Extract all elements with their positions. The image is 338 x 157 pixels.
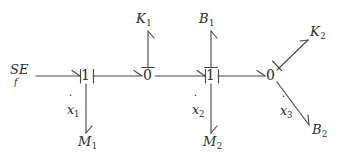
- element-letter-k2: K: [310, 24, 320, 39]
- element-label-k1: K1: [136, 12, 151, 25]
- bond-se-j1: [36, 70, 81, 84]
- element-label-m1: M1: [78, 135, 97, 148]
- junction-0-right: 0: [266, 68, 275, 82]
- flow-sub-xdot3: 3: [287, 110, 292, 120]
- element-label-m2: M2: [203, 135, 222, 148]
- element-label-b1: B1: [199, 12, 214, 25]
- element-letter-b2: B: [312, 122, 322, 137]
- flow-letter-xdot3: x: [280, 105, 287, 118]
- bond-j3-b1: [205, 31, 218, 68]
- source-effort-label: SE f: [10, 63, 28, 87]
- source-effort-symbol: SE: [10, 63, 28, 76]
- bond-j3-j4: [218, 70, 265, 84]
- flow-letter-xdot1: x: [67, 104, 74, 117]
- bond-j1-j2: [93, 70, 142, 84]
- bond-j1-m1: [86, 84, 92, 133]
- bond-j4-k2: [273, 40, 309, 71]
- bond-graph-figure: SE f 1 0 1 0 K1 B1 K2 M1 M2 B2 x1 x2 x3: [0, 0, 338, 157]
- element-sub-m1: 1: [92, 141, 97, 151]
- source-effort-subscript: f: [3, 77, 28, 87]
- element-sub-b2: 2: [322, 129, 327, 139]
- element-letter-k1: K: [136, 11, 146, 26]
- element-sub-k2: 2: [320, 31, 325, 41]
- bond-j2-j3: [155, 70, 206, 84]
- element-sub-m2: 2: [217, 141, 222, 151]
- bond-j3-m2: [211, 84, 217, 133]
- element-label-b2: B2: [312, 123, 327, 136]
- element-sub-k1: 1: [146, 18, 151, 28]
- flow-variable-xdot1: x1: [67, 104, 79, 117]
- junction-0-left: 0: [143, 68, 152, 82]
- junction-1-left: 1: [81, 68, 90, 82]
- element-letter-m2: M: [203, 134, 216, 149]
- flow-variable-xdot2: x2: [192, 104, 204, 117]
- element-letter-m1: M: [78, 134, 91, 149]
- flow-variable-xdot3: x3: [280, 105, 292, 118]
- flow-letter-xdot2: x: [192, 104, 199, 117]
- element-sub-b1: 1: [209, 18, 214, 28]
- element-label-k2: K2: [310, 25, 325, 38]
- bond-graph-canvas: [0, 0, 338, 157]
- element-letter-b1: B: [199, 11, 209, 26]
- junction-1-right: 1: [206, 68, 215, 82]
- bond-j2-k1: [142, 31, 155, 68]
- flow-sub-xdot1: 1: [74, 109, 79, 119]
- flow-sub-xdot2: 2: [199, 109, 204, 119]
